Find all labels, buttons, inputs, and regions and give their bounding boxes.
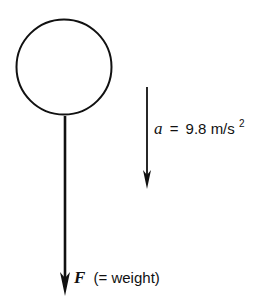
acceleration-arrow xyxy=(143,87,151,189)
force-arrow xyxy=(60,116,70,296)
force-label: F (= weight) xyxy=(73,268,160,287)
body-circle xyxy=(17,20,112,115)
acceleration-label: a = 9.8 m/s 2 xyxy=(154,118,245,138)
free-body-diagram: a = 9.8 m/s 2 F (= weight) xyxy=(0,0,265,298)
